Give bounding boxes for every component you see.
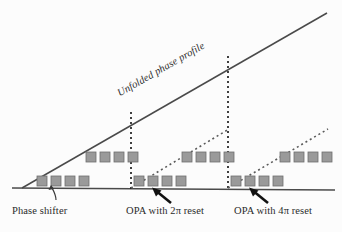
thick-pointer-arrow-icon [152,188,171,204]
phase-shifter-square [176,176,186,186]
phase-shifter-row-lower [37,176,283,186]
baseline-axis [12,188,335,190]
phase-shifter-group-lower-3 [231,176,283,186]
phase-shifter-group-lower-2 [134,176,186,186]
phase-shifter-label: Phase shifter [12,205,67,216]
phase-shifter-square [210,152,220,162]
phase-shifter-square [114,152,124,162]
phase-shifter-square [134,176,144,186]
opa-2pi-reset-label: OPA with 2π reset [126,205,204,216]
phase-shifter-square [308,152,318,162]
opa-4pi-reset-label: OPA with 4π reset [234,205,312,216]
phase-shifter-square [259,176,269,186]
phase-shifter-group-upper-1 [86,152,138,162]
thin-pointer-arrow-icon [49,185,57,200]
phase-shifter-group-upper-3 [280,152,332,162]
phase-shifter-group-lower-1 [37,176,89,186]
phase-shifter-row-upper [86,152,332,162]
figure-canvas [0,0,342,232]
phase-profile-figure: Unfolded phase profile Phase shifter OPA… [0,0,342,232]
phase-shifter-square [280,152,290,162]
phase-shifter-square [86,152,96,162]
phase-shifter-square [273,176,283,186]
phase-shifter-square [162,176,172,186]
phase-shifter-square [294,152,304,162]
phase-shifter-square [128,152,138,162]
phase-shifter-square [37,176,47,186]
phase-shifter-square [79,176,89,186]
phase-shifter-square [231,176,241,186]
phase-shifter-square [148,176,158,186]
phase-shifter-square [182,152,192,162]
phase-shifter-square [245,176,255,186]
phase-shifter-square [51,176,61,186]
phase-shifter-square [65,176,75,186]
phase-shifter-square [100,152,110,162]
phase-shifter-square [224,152,234,162]
phase-shifter-square [322,152,332,162]
phase-shifter-square [196,152,206,162]
phase-shifter-group-upper-2 [182,152,234,162]
